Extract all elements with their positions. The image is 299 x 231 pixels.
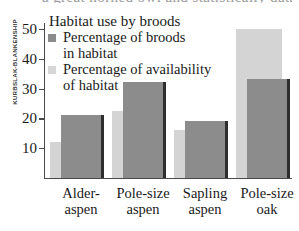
y-tick-label: 10 [22, 140, 37, 157]
category-label-line2: oak [229, 201, 299, 217]
light-swatch-icon [48, 66, 56, 74]
clipped-title-remnant: a great horned owl and statistically dat… [42, 0, 292, 3]
bar-group [236, 23, 298, 178]
y-tick-label: 30 [22, 80, 37, 97]
y-tick-mark [39, 148, 44, 149]
legend-title: Habitat use by broods [49, 13, 262, 29]
legend-label-line2: in habitat [63, 46, 262, 62]
bar-broods [123, 82, 166, 177]
y-tick-label: 40 [22, 50, 37, 67]
bar-broods [185, 121, 228, 178]
chart-figure: a great horned owl and statistically dat… [0, 0, 299, 231]
y-axis-line [44, 23, 45, 179]
x-axis-line [44, 178, 292, 179]
category-label: Pole-sizeoak [229, 185, 299, 217]
bar-broods [61, 115, 104, 178]
y-tick-mark [39, 29, 44, 30]
chart-legend: Habitat use by broods Percentage of broo… [47, 13, 262, 93]
y-tick-label: 20 [22, 110, 37, 127]
category-label-line1: Pole-size [229, 185, 299, 201]
y-tick-label: 50 [22, 20, 37, 37]
dark-swatch-icon [48, 34, 56, 42]
legend-entry: Percentage of broodsin habitat [47, 30, 262, 61]
y-tick-mark [39, 118, 44, 119]
y-tick-mark [39, 59, 44, 60]
legend-label-line1: Percentage of broods [63, 29, 185, 45]
y-tick-mark [39, 89, 44, 90]
bar-broods [247, 79, 290, 177]
legend-label-line1: Percentage of availability [63, 61, 211, 77]
